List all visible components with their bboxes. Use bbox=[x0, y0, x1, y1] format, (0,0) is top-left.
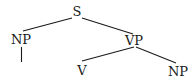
node-np-subject: NP bbox=[11, 32, 31, 47]
edge-vp-v bbox=[82, 47, 134, 61]
edge-s-vp bbox=[82, 18, 133, 34]
node-np-object: NP bbox=[168, 64, 188, 79]
edge-s-np bbox=[23, 18, 72, 31]
node-vp: VP bbox=[124, 33, 143, 48]
node-v: V bbox=[76, 63, 87, 78]
syntax-tree-diagram: S NP VP V NP bbox=[0, 0, 195, 81]
edge-vp-np bbox=[136, 47, 176, 63]
node-s: S bbox=[73, 4, 82, 19]
